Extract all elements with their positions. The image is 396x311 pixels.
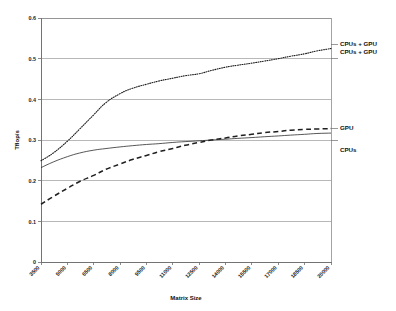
x-tick-label: 18500: [289, 264, 304, 279]
x-tick-label: 8000: [107, 264, 120, 277]
x-tick-label: 14000: [210, 264, 225, 279]
y-axis-tick-labels: 0.6 0.5 0.4 0.3 0.2 0.1 0: [29, 15, 37, 265]
line-chart: 0.6 0.5 0.4 0.3 0.2 0.1 0 3500 5000: [0, 0, 396, 311]
x-tick-label: 12500: [184, 264, 199, 279]
y-axis-title: Tflop/s: [14, 130, 20, 150]
chart-container: 0.6 0.5 0.4 0.3 0.2 0.1 0 3500 5000: [0, 0, 396, 311]
y-tick-label: 0.3: [29, 137, 37, 143]
series-label-gpu: GPU: [340, 124, 354, 131]
x-tick-label: 11000: [158, 264, 173, 279]
series-label-cpus: CPUs: [340, 146, 357, 153]
y-tick-label: 0.5: [29, 56, 37, 62]
y-tick-label: 0.6: [29, 15, 37, 21]
x-tick-label: 17000: [263, 264, 278, 279]
y-tick-label: 0.1: [29, 219, 37, 225]
x-tick-label: 15500: [237, 264, 252, 279]
series-label-cpus-plus-gpu-top: CPUs + GPU: [340, 40, 377, 47]
x-axis-ticks: [41, 262, 331, 265]
x-tick-label: 3500: [28, 264, 41, 277]
series-label-cpus-plus-gpu-second: CPUs + GPU: [340, 48, 377, 55]
x-axis-title: Matrix Size: [170, 295, 202, 301]
x-tick-label: 20000: [316, 264, 331, 279]
y-tick-label: 0.2: [29, 178, 37, 184]
x-tick-label: 9500: [133, 264, 146, 277]
x-axis-tick-labels: 3500 5000 6500 8000 9500 11000 12500 140…: [28, 264, 331, 279]
x-tick-label: 5000: [54, 264, 67, 277]
series-label-leaders: [331, 44, 338, 140]
y-tick-label: 0.4: [29, 97, 37, 103]
x-tick-label: 6500: [81, 264, 94, 277]
series-labels: CPUs + GPU CPUs + GPU GPU CPUs: [340, 40, 377, 153]
